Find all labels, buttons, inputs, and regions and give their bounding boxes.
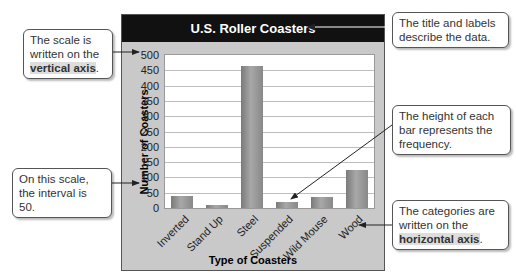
callout-bold-text: vertical axis	[30, 62, 96, 74]
chart-frame: U.S. Roller Coasters Number of Coasters …	[121, 14, 385, 271]
y-tick-label: 400	[141, 80, 159, 92]
callout-bar-height: The height of each bar represents the fr…	[392, 105, 511, 155]
gridline	[165, 177, 374, 178]
callout-vertical-axis: The scale is written on the vertical axi…	[23, 29, 113, 79]
bar-suspended	[276, 202, 298, 208]
y-tick-label: 500	[141, 49, 159, 61]
x-tick-label: Stand Up	[185, 213, 226, 254]
callout-horizontal-axis: The categories are written on the horizo…	[392, 200, 509, 250]
y-tick-label: 100	[141, 171, 159, 183]
y-tick-label: 300	[141, 110, 159, 122]
callout-text: The title and labels describe the data.	[399, 17, 496, 43]
bar-wood	[346, 170, 368, 208]
gridline	[165, 162, 374, 163]
callout-text: .	[480, 233, 483, 245]
callout-text: The height of each bar represents the fr…	[399, 110, 494, 150]
y-tick-label: 250	[141, 126, 159, 138]
x-tick-label: Steel	[234, 213, 260, 239]
chart-title: U.S. Roller Coasters	[122, 15, 384, 42]
gridline	[165, 193, 374, 194]
bar-steel	[241, 66, 263, 208]
y-tick-label: 0	[153, 202, 159, 214]
x-axis-title: Type of Coasters	[122, 254, 384, 266]
y-tick-label: 200	[141, 141, 159, 153]
callout-title-labels: The title and labels describe the data.	[392, 12, 509, 48]
y-tick-label: 50	[147, 187, 159, 199]
callout-text: The categories are written on the	[399, 205, 495, 231]
y-tick-label: 450	[141, 64, 159, 76]
gridline	[165, 101, 374, 102]
gridline	[165, 70, 374, 71]
callout-text: On this scale, the interval is 50.	[19, 173, 89, 213]
callout-bold-text: horizontal axis	[399, 233, 480, 245]
bar-inverted	[171, 196, 193, 208]
callout-text: The scale is written on the	[30, 34, 99, 60]
callout-text: .	[96, 62, 99, 74]
bar-wild-mouse	[311, 197, 333, 208]
callout-interval: On this scale, the interval is 50.	[12, 168, 112, 218]
bar-stand-up	[206, 205, 228, 208]
gridline	[165, 86, 374, 87]
y-tick-label: 350	[141, 95, 159, 107]
gridline	[165, 116, 374, 117]
x-tick-label: Wood	[336, 213, 365, 242]
plot-area	[164, 54, 375, 209]
y-tick-label: 150	[141, 156, 159, 168]
gridline	[165, 132, 374, 133]
gridline	[165, 147, 374, 148]
